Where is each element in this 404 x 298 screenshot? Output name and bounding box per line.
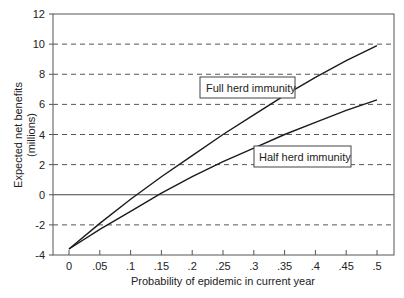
y-tick-label: 12 — [33, 8, 45, 20]
y-tick-label: -2 — [35, 219, 45, 231]
half-herd-immunity-line — [69, 100, 377, 249]
x-tick-label: .4 — [311, 260, 320, 272]
x-tick-label: .45 — [339, 260, 354, 272]
chart: -4-2024681012 0.05.1.15.2.25.3.35.4.45.5… — [0, 0, 404, 298]
x-tick-label: .05 — [92, 260, 107, 272]
half-herd-callout: Half herd immunity — [254, 146, 351, 167]
full-herd-callout: Full herd immunity — [200, 77, 296, 98]
x-axis-ticks: 0.05.1.15.2.25.3.35.4.45.5 — [66, 250, 382, 272]
y-tick-label: 8 — [39, 68, 45, 80]
half-herd-label: Half herd immunity — [259, 151, 351, 163]
y-tick-label: 2 — [39, 159, 45, 171]
x-tick-label: .25 — [215, 260, 230, 272]
x-tick-label: .5 — [372, 260, 381, 272]
x-tick-label: .2 — [188, 260, 197, 272]
y-axis-subtitle: (millions) — [25, 113, 37, 157]
full-herd-label: Full herd immunity — [206, 82, 296, 94]
x-tick-label: .35 — [277, 260, 292, 272]
x-tick-label: 0 — [66, 260, 72, 272]
y-tick-label: 0 — [39, 189, 45, 201]
y-tick-label: 6 — [39, 98, 45, 110]
y-tick-label: 4 — [39, 129, 45, 141]
y-tick-label: 10 — [33, 38, 45, 50]
x-tick-label: .15 — [154, 260, 169, 272]
x-tick-label: .3 — [249, 260, 258, 272]
x-axis-title: Probability of epidemic in current year — [131, 275, 315, 287]
x-tick-label: .1 — [126, 260, 135, 272]
y-axis-title: Expected net benefits — [12, 82, 24, 188]
y-tick-label: -4 — [35, 249, 45, 261]
